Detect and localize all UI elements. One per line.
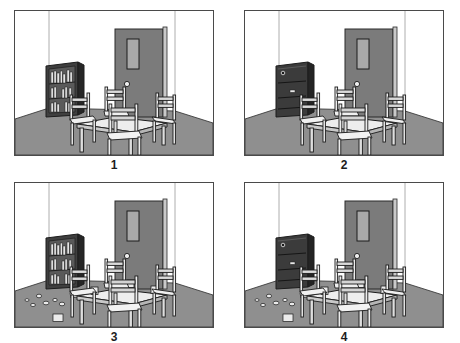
panel-1-caption: 1	[14, 158, 214, 172]
panel-3-scene	[15, 183, 213, 327]
panel-4-scene	[245, 183, 443, 327]
panel-1-scene	[15, 11, 213, 155]
panel-3-caption: 3	[14, 330, 214, 343]
panel-3: 3	[14, 182, 214, 328]
panel-2-scene	[245, 11, 443, 155]
figure-sheet: 1	[0, 0, 460, 343]
panel-2: 2	[244, 10, 444, 156]
panel-1: 1	[14, 10, 214, 156]
panel-2-caption: 2	[244, 158, 444, 172]
panel-4: 4	[244, 182, 444, 328]
panel-4-caption: 4	[244, 330, 444, 343]
